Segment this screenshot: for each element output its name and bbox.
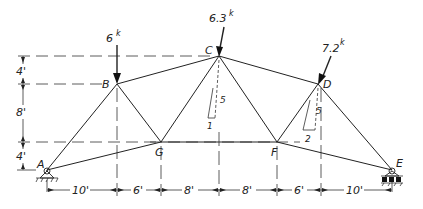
svg-text:8': 8' — [184, 184, 194, 197]
load-b: 6 k — [106, 29, 121, 84]
svg-text:6': 6' — [294, 184, 304, 197]
svg-text:k: k — [116, 29, 121, 38]
slope-triangle-c: 5 1 — [207, 60, 226, 131]
arrow-down-icon — [216, 46, 223, 57]
svg-text:k: k — [340, 38, 345, 47]
load-c: 6.3 k — [209, 9, 234, 57]
svg-text:6.3: 6.3 — [209, 12, 227, 25]
horizontal-dimensions: 10' 6' 8' 8' 6' 10' — [47, 183, 392, 197]
svg-text:k: k — [229, 9, 234, 18]
svg-text:4': 4' — [16, 150, 26, 163]
slope-d-rise: 5 — [316, 106, 322, 116]
svg-text:6: 6 — [106, 32, 113, 45]
joint-label-f: F — [271, 146, 278, 159]
joint-label-e: E — [396, 157, 403, 170]
joint-label-g: G — [155, 146, 164, 159]
joint-label-c: C — [205, 44, 213, 57]
svg-text:10': 10' — [346, 184, 363, 197]
slope-c-run: 1 — [207, 121, 213, 131]
arrow-down-icon — [113, 73, 121, 84]
joint-labels: A B C D E F G — [36, 44, 403, 171]
slope-d-run: 2 — [305, 134, 311, 144]
slope-c-rise: 5 — [220, 95, 226, 105]
svg-text:8': 8' — [16, 106, 26, 119]
roller-support-e — [381, 168, 403, 186]
truss-diagram: 5 1 5 2 6 k 6.3 k 7.2 k A B C D E F G — [0, 0, 423, 209]
vertical-dimensions: 4' 8' 4' — [15, 56, 36, 170]
slope-triangle-d: 5 2 — [303, 88, 322, 144]
svg-text:8': 8' — [242, 184, 252, 197]
svg-text:10': 10' — [72, 184, 89, 197]
svg-text:4': 4' — [16, 65, 26, 78]
svg-text:7.2: 7.2 — [322, 42, 340, 55]
joint-label-b: B — [102, 78, 110, 91]
truss-members — [47, 56, 392, 170]
joint-label-a: A — [36, 158, 45, 171]
joint-label-d: D — [323, 78, 331, 91]
svg-text:6': 6' — [133, 184, 143, 197]
